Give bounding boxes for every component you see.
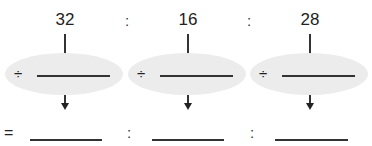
stem-1 — [64, 95, 66, 103]
number-3: 28 — [280, 10, 340, 30]
connector-2 — [187, 34, 189, 54]
colon-bottom-2: : — [250, 124, 254, 141]
stem-2 — [187, 95, 189, 103]
oval-3 — [250, 53, 368, 95]
equals-sign: = — [4, 124, 13, 142]
stem-3 — [309, 95, 311, 103]
number-2: 16 — [158, 10, 218, 30]
oval-2 — [128, 53, 246, 95]
result-blank-2[interactable] — [152, 139, 224, 141]
divide-sign-1: ÷ — [14, 65, 22, 82]
divide-sign-2: ÷ — [137, 65, 145, 82]
colon-bottom-1: : — [127, 124, 131, 141]
oval-1 — [5, 53, 123, 95]
arrow-down-icon — [306, 103, 314, 110]
connector-1 — [64, 34, 66, 54]
arrow-down-icon — [61, 103, 69, 110]
divide-sign-3: ÷ — [259, 65, 267, 82]
colon-top-1: : — [125, 12, 129, 29]
arrow-down-icon — [184, 103, 192, 110]
connector-3 — [309, 34, 311, 54]
divisor-blank-2[interactable] — [160, 75, 233, 77]
result-blank-3[interactable] — [275, 139, 348, 141]
divisor-blank-1[interactable] — [37, 75, 110, 77]
result-blank-1[interactable] — [30, 139, 102, 141]
number-1: 32 — [35, 10, 95, 30]
divisor-blank-3[interactable] — [282, 75, 355, 77]
colon-top-2: : — [247, 12, 251, 29]
